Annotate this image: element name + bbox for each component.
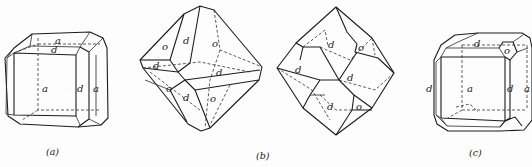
caption-c: (c) [469, 147, 482, 158]
panel-c-cube-crystal: d o d a d a (c) [426, 33, 532, 158]
face-label-o-6: o [356, 101, 362, 112]
face-label-d-1: d [183, 35, 189, 46]
panel-b-octahedron-crystal: o d o d d o d o [140, 6, 262, 131]
face-label-d-4: d [183, 92, 189, 103]
face-label-d-side: d [77, 83, 83, 94]
face-label-o-corner: o [504, 45, 510, 56]
face-label-d-3: d [216, 67, 222, 78]
face-label-d-side: d [507, 83, 513, 94]
face-label-d-left: d [426, 83, 432, 94]
panel-b-dodecahedron-crystal: d o d d d o (b) [256, 7, 394, 161]
crystal-diagram-svg: a d a d a (a) o d o d d o d o [0, 0, 532, 167]
face-label-o-3: o [166, 83, 172, 94]
face-label-a-front: a [42, 83, 48, 94]
face-label-d-6: d [295, 64, 301, 75]
face-label-a-right: a [93, 83, 99, 94]
crystal-figure: a d a d a (a) o d o d d o d o [0, 0, 532, 167]
face-label-d-7: d [347, 72, 353, 83]
caption-a: (a) [46, 146, 59, 157]
face-label-d-2: d [153, 60, 159, 71]
face-label-o-1: o [162, 41, 168, 52]
face-label-a-front: a [467, 83, 473, 94]
face-label-a-right: a [524, 83, 530, 94]
face-label-o-4: o [210, 93, 216, 104]
face-label-o-5: o [358, 42, 364, 53]
face-label-d-top: d [51, 44, 57, 55]
panel-a-cube-crystal: a d a d a (a) [5, 32, 108, 157]
face-label-d-top: d [474, 38, 480, 49]
face-label-o-2: o [212, 38, 218, 49]
caption-b: (b) [256, 150, 270, 161]
face-label-d-5: d [328, 39, 334, 50]
face-label-d-8: d [327, 101, 333, 112]
